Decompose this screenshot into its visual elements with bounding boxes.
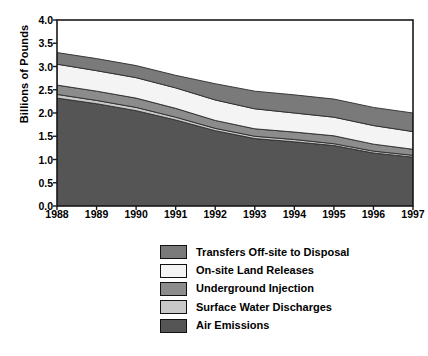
stacked-area-chart-figure: Billions of Pounds 0.00.51.01.52.02.53.0… — [0, 0, 428, 356]
legend-swatch-icon — [160, 245, 187, 259]
legend-item-label: Surface Water Discharges — [196, 302, 332, 313]
legend-item-label: Air Emissions — [196, 320, 269, 331]
legend-item-label: Transfers Off-site to Disposal — [196, 247, 349, 258]
legend-item: Air Emissions — [160, 317, 410, 335]
legend-item-label: Underground Injection — [196, 283, 314, 294]
legend-swatch-icon — [160, 282, 187, 296]
legend-swatch-icon — [160, 300, 187, 314]
legend-item: Surface Water Discharges — [160, 298, 410, 316]
legend-swatch-icon — [160, 264, 187, 278]
legend-item: Transfers Off-site to Disposal — [160, 243, 410, 261]
legend-item-label: On-site Land Releases — [196, 265, 314, 276]
chart-legend: Transfers Off-site to DisposalOn-site La… — [160, 243, 410, 335]
legend-swatch-icon — [160, 319, 187, 333]
legend-item: Underground Injection — [160, 280, 410, 298]
legend-item: On-site Land Releases — [160, 261, 410, 279]
